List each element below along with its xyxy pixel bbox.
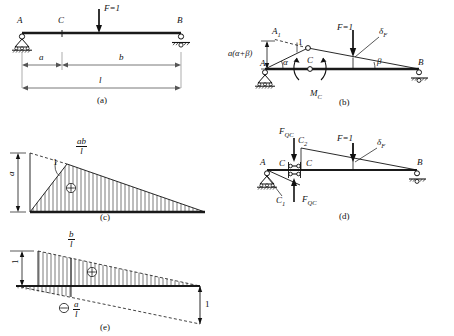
panel-b-graphics [227, 0, 454, 112]
panel-c-graphics [0, 112, 227, 224]
negative-numerator-e: a [73, 300, 80, 309]
label-shear-top-sub-d: QC [285, 131, 294, 138]
dim-arrow-rot-top-b [265, 41, 269, 47]
load-arrow-head-d [350, 154, 356, 162]
peak-numerator-c: ab [76, 137, 87, 146]
pin-roller-right-b [269, 83, 272, 86]
label-slope-unit-c: 1 [53, 158, 58, 167]
positive-sign-circle-e [87, 267, 96, 276]
positive-limb-dashed-e [38, 251, 200, 286]
label-node-a-b: A [260, 59, 266, 68]
label-node-a-d: A [260, 158, 266, 167]
label-shear-bot-sub-d: QC [308, 199, 317, 206]
pin-hinge-d [265, 171, 270, 176]
dim-arrow-a-left [22, 63, 28, 68]
panel-c: a 1 ab l (c) [0, 112, 227, 224]
pin-roller-left-b [258, 83, 261, 86]
positive-sign-circle-c [66, 183, 75, 192]
label-load-b: F=1 [337, 23, 353, 32]
hatch-negative-e [18, 282, 70, 302]
label-moment-sub: C [318, 93, 322, 100]
dim-arrow-l-right [175, 86, 181, 91]
caption-d: (d) [339, 211, 350, 221]
dim-arrow-top-c [16, 153, 20, 159]
label-node-b: B [177, 16, 183, 25]
label-dim-b: b [119, 53, 124, 62]
label-a1-sub: 1 [278, 31, 281, 38]
panel-d: A B C C C1 C2 F=1 FQC FQC δF (d) [227, 112, 454, 224]
label-load-d: F=1 [337, 134, 353, 143]
label-c2-sub-d: 2 [304, 140, 307, 147]
label-node-b-d: B [417, 158, 423, 167]
hatch-group-c [33, 152, 201, 214]
pin-triangle-d [260, 176, 274, 184]
ground-hatch-b-left [256, 86, 273, 88]
label-alpha-b: α [283, 58, 288, 67]
shear-arrow-bottom-head-d [291, 178, 297, 186]
pin-triangle-b [258, 75, 272, 83]
roller-wheel-d [415, 179, 419, 183]
label-node-a: A [17, 16, 23, 25]
dim-arrow-a-right [56, 63, 62, 68]
pin-roller-left-d [260, 184, 263, 187]
positive-denominator-e: l [68, 239, 75, 249]
ground-hatch-b-right [412, 78, 427, 80]
moment-arrow-right-b [320, 58, 326, 63]
label-node-a-b-text: A [260, 58, 266, 68]
label-shear-top-d: FQC [279, 127, 294, 138]
label-moment-c-b: MC [310, 89, 322, 100]
label-delta-f-d: δF [377, 138, 385, 149]
roller-hinge-b2 [417, 70, 422, 75]
apex-hinge-b [306, 46, 311, 51]
ground-hatch-d-left [258, 187, 275, 189]
dim-arrow-top-e [20, 251, 24, 257]
panel-e: 1 1 b l a l (e) [0, 224, 227, 336]
dim-arrow-b-right [175, 63, 181, 68]
delta-f-leader-b [355, 37, 379, 57]
label-positive-bl-e: b l [68, 230, 75, 249]
panel-b: A A1 B C F=1 a(α+β) α β 1 MC δF (b) [227, 0, 454, 112]
label-node-c-left-d: C [279, 159, 285, 168]
roller-hinge-d [415, 171, 420, 176]
pin-roller-mid-a [21, 47, 24, 50]
caption-c: (c) [100, 212, 110, 222]
rising-limb-c [30, 164, 67, 212]
label-beta-b: β [377, 57, 381, 66]
pin-roller-mid-d [266, 184, 269, 187]
displaced-right-d [301, 148, 417, 170]
label-delta-sub-d: F [381, 142, 385, 149]
negative-sign-circle-e [59, 303, 68, 312]
pin-roller-mid-b [264, 83, 267, 86]
moment-arrow-left-b [294, 58, 300, 63]
pin-roller-left-a [15, 47, 18, 50]
moment-arc-right-b [321, 58, 326, 80]
label-dim-a: a [39, 53, 44, 62]
label-delta-f-b: δF [379, 27, 387, 38]
hinge-c-b [308, 67, 313, 72]
hatch-positive-e [39, 244, 199, 290]
roller-wheel-b2 [417, 78, 421, 82]
label-load-a: F=1 [104, 4, 120, 13]
label-negative-al-e: a l [73, 300, 80, 319]
pin-hinge-b [263, 70, 268, 75]
load-arrow-head-b [350, 48, 356, 57]
label-dim-l: l [99, 76, 102, 85]
caption-a: (a) [97, 95, 107, 105]
displaced-right-b [308, 48, 419, 69]
roller-hinge-b [178, 34, 183, 39]
panel-e-graphics [0, 224, 227, 336]
label-moment-main: M [310, 88, 318, 98]
label-node-c2-d: C2 [298, 136, 307, 147]
roller-wheel-b [179, 43, 183, 47]
label-node-a1-b: A1 [272, 27, 281, 38]
caption-b: (b) [339, 97, 350, 107]
dim-arrow-b-left [62, 63, 68, 68]
dim-arrow-bot-e [20, 280, 24, 286]
label-delta-sub-b: F [383, 31, 387, 38]
falling-limb-c [67, 164, 205, 212]
ground-hatch-d-right [410, 179, 425, 181]
label-ordinate-left-e: 1 [11, 260, 20, 265]
label-node-c1-d: C1 [276, 196, 285, 207]
pin-roller-right-a [26, 47, 29, 50]
panel-d-graphics [227, 112, 454, 224]
